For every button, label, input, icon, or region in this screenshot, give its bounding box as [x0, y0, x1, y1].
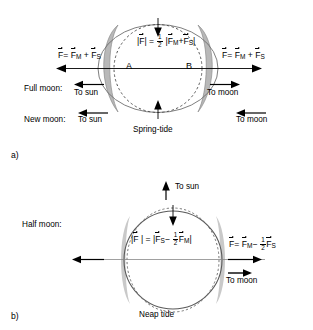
to-sun-arrowhead-b: [162, 181, 170, 191]
formula-b-minus: −: [165, 234, 170, 244]
panel-b-to-sun-label: To sun: [175, 183, 199, 192]
panel-b-to-moon-label: To moon: [226, 277, 257, 286]
new-moon-to-moon-label: To moon: [236, 116, 267, 125]
formula-b-vector-fs: F: [155, 232, 160, 244]
formula-vector-fs: F: [183, 34, 188, 46]
new-moon-to-sun-label: To sun: [78, 116, 102, 125]
formula-equals: =: [149, 36, 154, 46]
full-moon-to-moon-label: To moon: [207, 89, 238, 98]
panel-a-caption: Spring-tide: [133, 126, 173, 135]
panel-b-caption: Neap tide: [139, 311, 174, 320]
figure-graphics: [0, 0, 313, 330]
right-fraction-b-denominator: 2: [260, 244, 266, 251]
fraction-numerator: 1: [157, 34, 163, 40]
formula-fraction-half: 12: [157, 34, 163, 48]
point-label-b: B: [186, 62, 192, 71]
panel-b-tag: b): [11, 311, 19, 321]
right-force-plus: +: [248, 50, 253, 60]
right-force-vector-fm: F: [235, 48, 240, 60]
right-force-b-vector-fs: F: [266, 237, 271, 249]
right-force-b-equals: =: [234, 239, 239, 249]
right-force-b-vector-f: F: [229, 237, 234, 249]
tidal-shading-left-b: [121, 216, 130, 304]
right-force-subscript-m: M: [240, 53, 245, 60]
panel-a-left-force-label: F= FM + FS: [58, 48, 101, 60]
panel-a-center-formula: |F| = 12 |FM+FS|: [137, 34, 195, 48]
panel-b-right-force-label: F= FM− 12FS: [229, 237, 276, 251]
left-force-vector-fm: F: [71, 48, 76, 60]
force-arrow-right-a: [252, 65, 262, 73]
formula-b-bar: |: [189, 234, 191, 244]
row-label-new-moon: New moon:: [24, 116, 65, 125]
formula-b-vector-fm: F: [179, 232, 184, 244]
left-force-vector-f: F: [58, 48, 63, 60]
panel-a-tag: a): [11, 150, 19, 160]
force-arrow-left-b: [72, 256, 81, 263]
bottom-inward-arrow-a: [154, 100, 162, 110]
right-force-subscript-s: S: [260, 53, 264, 60]
left-force-subscript-s: S: [96, 53, 100, 60]
fraction-denominator: 2: [157, 41, 163, 48]
fraction-b-denominator: 2: [173, 239, 179, 246]
tidal-forces-figure: |F| = 12 |FM+FS| F= FM + FS F= FM + FS A…: [0, 0, 313, 330]
force-arrow-right-b: [253, 256, 262, 263]
right-force-b-subscript-s: S: [272, 242, 276, 249]
right-force-vector-f: F: [222, 48, 227, 60]
left-force-subscript-m: M: [76, 53, 81, 60]
left-force-equals: =: [63, 50, 68, 60]
force-arrow-left-a: [56, 65, 66, 73]
full-moon-to-sun-label: To sun: [74, 89, 98, 98]
panel-a-right-force-label: F= FM + FS: [222, 48, 265, 60]
left-force-vector-fs: F: [91, 48, 96, 60]
formula-b-bar: |: [141, 234, 143, 244]
left-force-plus: +: [84, 50, 89, 60]
formula-bar: |: [144, 36, 146, 46]
formula-b-fraction-half: 12: [173, 232, 179, 246]
right-force-b-minus: −: [252, 239, 257, 249]
right-force-b-fraction-half: 12: [260, 237, 266, 251]
formula-bar: |: [193, 36, 195, 46]
right-fraction-b-numerator: 1: [260, 237, 266, 243]
formula-vector-f: F: [139, 34, 144, 46]
formula-b-vector-f: F: [133, 232, 138, 244]
row-label-half-moon: Half moon:: [22, 221, 62, 230]
formula-vector-fm: F: [168, 34, 173, 46]
row-label-full-moon: Full moon:: [24, 85, 62, 94]
panel-b-center-formula: |F | = |FS− 12FM|: [131, 232, 192, 246]
right-force-b-vector-fm: F: [242, 237, 247, 249]
top-inward-arrow-b: [169, 217, 177, 227]
point-label-a: A: [126, 62, 132, 71]
tidal-shading-right-b: [216, 216, 225, 304]
right-force-vector-fs: F: [255, 48, 260, 60]
formula-b-equals: =: [146, 234, 151, 244]
right-force-equals: =: [227, 50, 232, 60]
